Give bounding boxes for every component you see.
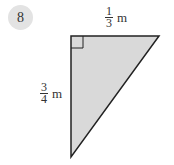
- top-side-label: 1 3 m: [105, 6, 127, 29]
- top-side-denominator: 3: [106, 18, 112, 29]
- left-side-label: 3 4 m: [40, 82, 62, 105]
- top-side-unit: m: [117, 10, 127, 26]
- right-triangle-figure: [0, 0, 174, 165]
- left-side-unit: m: [52, 86, 62, 102]
- left-side-denominator: 4: [41, 94, 47, 105]
- triangle-shape: [71, 36, 159, 157]
